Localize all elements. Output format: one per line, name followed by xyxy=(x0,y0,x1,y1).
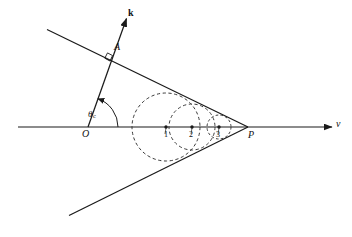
label-circle-1: 1 xyxy=(164,131,168,139)
label-circle-3: 3 xyxy=(216,131,220,139)
cone-lower-edge xyxy=(69,127,248,216)
label-axis-k: k xyxy=(128,8,134,18)
cone-upper-edge xyxy=(47,30,248,128)
angle-subscript: c xyxy=(93,112,96,119)
label-point-A: A xyxy=(114,42,120,52)
label-circle-2: 2 xyxy=(189,131,193,139)
angle-arc-theta-c xyxy=(98,99,118,127)
cherenkov-cone-diagram: O P A v k θc 1 2 3 xyxy=(0,0,352,237)
label-angle-theta-c: θc xyxy=(88,110,96,120)
label-apex-P: P xyxy=(248,130,254,140)
angle-symbol: θ xyxy=(88,109,92,119)
diagram-canvas xyxy=(0,0,352,237)
label-origin-O: O xyxy=(82,129,89,139)
label-axis-v: v xyxy=(336,119,340,129)
